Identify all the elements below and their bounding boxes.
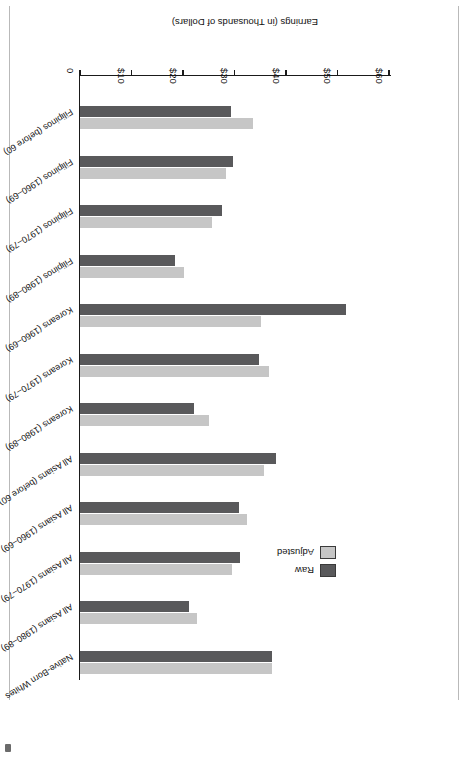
value-axis-tick-label: $20 xyxy=(168,68,179,84)
category-tick-label: All Asians (1970–79) xyxy=(0,553,75,605)
category-tick-label: Filipinos (1970–79) xyxy=(4,206,74,255)
bar-adjusted xyxy=(80,267,184,278)
bar-raw xyxy=(80,156,233,167)
bar-adjusted xyxy=(80,614,197,625)
value-axis-tick xyxy=(285,70,286,76)
bar-adjusted xyxy=(80,317,261,328)
category-tick-label: Koreans (1980–89) xyxy=(4,404,75,453)
bar-chart-figure: 0$10$20$30$40$50$60 Native-Born WhitesAl… xyxy=(0,0,467,700)
category-tick-label: Native-Born Whites xyxy=(4,652,75,702)
category-tick-label: Filipinos (before 60) xyxy=(2,107,75,158)
legend-swatch-raw xyxy=(320,564,336,577)
scan-artifact-mark xyxy=(5,744,11,752)
legend-label-adjusted: Adjusted xyxy=(277,545,314,560)
value-axis-tick-label: $40 xyxy=(271,68,282,84)
bar-adjusted xyxy=(80,663,272,674)
bar-raw xyxy=(80,305,346,316)
bar-raw xyxy=(80,651,272,662)
chart-legend: Raw Adjusted xyxy=(240,532,336,578)
bar-raw xyxy=(80,602,189,613)
value-axis-tick-label: $30 xyxy=(220,68,231,84)
plot-area: 0$10$20$30$40$50$60 Native-Born WhitesAl… xyxy=(119,88,428,688)
bar-adjusted xyxy=(80,366,269,377)
value-axis-tick xyxy=(131,70,132,76)
value-axis-tick xyxy=(388,70,389,76)
bar-raw xyxy=(80,206,222,217)
value-axis-tick-label: 0 xyxy=(65,68,76,73)
bar-adjusted xyxy=(80,119,253,130)
value-axis-tick-label: $50 xyxy=(323,68,334,84)
category-tick-label: All Asians (1960–69) xyxy=(0,503,75,555)
value-axis-tick xyxy=(234,70,235,76)
bar-adjusted xyxy=(80,465,264,476)
legend-label-raw: Raw xyxy=(295,563,314,578)
category-tick-label: Filipinos (1980–89) xyxy=(4,256,74,305)
category-tick-label: Filipinos (1960–69) xyxy=(4,157,74,206)
bar-raw xyxy=(80,453,276,464)
value-axis-tick xyxy=(337,70,338,76)
category-tick-label: Koreans (1960–69) xyxy=(4,305,75,354)
value-axis-tick-label: $10 xyxy=(117,68,128,84)
value-axis-title: Earnings (in Thousands of Dollars) xyxy=(172,17,318,28)
value-axis-tick xyxy=(182,70,183,76)
bar-raw xyxy=(80,404,194,415)
bar-adjusted xyxy=(80,564,232,575)
bar-adjusted xyxy=(80,168,226,179)
value-axis-tick xyxy=(79,70,80,76)
category-tick-label: All Asians (1980–89) xyxy=(0,602,75,654)
category-tick-label: Koreans (1970–79) xyxy=(4,355,75,404)
legend-swatch-adjusted xyxy=(320,546,336,559)
value-axis-tick-label: $60 xyxy=(374,68,385,84)
bar-adjusted xyxy=(80,416,209,427)
bar-adjusted xyxy=(80,218,212,229)
bar-raw xyxy=(80,503,239,514)
bar-raw xyxy=(80,107,231,118)
bar-adjusted xyxy=(80,515,247,526)
bar-raw xyxy=(80,552,240,563)
bar-raw xyxy=(80,255,175,266)
bar-raw xyxy=(80,354,259,365)
category-tick-label: All Asians (before 60) xyxy=(0,454,75,508)
